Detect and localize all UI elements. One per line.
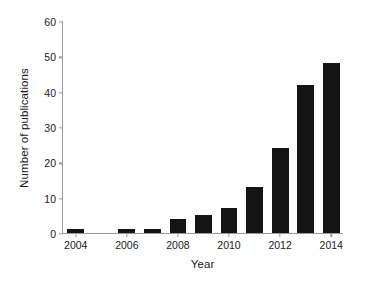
- x-tick-mark: [126, 233, 127, 237]
- x-axis-title: Year: [62, 258, 343, 270]
- bar-chart-figure: Number of publications 0102030405060 200…: [0, 0, 365, 285]
- bars-group: [63, 22, 343, 233]
- x-tick-mark: [228, 233, 229, 237]
- bar: [246, 187, 263, 233]
- bar: [170, 219, 187, 233]
- bar: [144, 229, 161, 233]
- bar: [323, 63, 340, 233]
- x-tick-mark: [279, 233, 280, 237]
- bar: [297, 85, 314, 233]
- x-tick-label: 2012: [268, 240, 291, 251]
- x-tick-mark: [177, 233, 178, 237]
- x-tick-label: 2004: [64, 240, 87, 251]
- y-tick-label: 40: [44, 87, 63, 98]
- y-tick-label: 30: [44, 123, 63, 134]
- y-tick-label: 60: [44, 17, 63, 28]
- x-tick-label: 2006: [115, 240, 138, 251]
- bar: [221, 208, 238, 233]
- y-axis-title: Number of publications: [16, 22, 32, 234]
- y-tick-label: 50: [44, 52, 63, 63]
- x-tick-label: 2008: [166, 240, 189, 251]
- x-tick-label: 2014: [320, 240, 343, 251]
- x-tick-mark: [331, 233, 332, 237]
- bar: [272, 148, 289, 233]
- bar: [195, 215, 212, 233]
- y-tick-label: 10: [44, 193, 63, 204]
- y-tick-label: 0: [50, 229, 63, 240]
- x-tick-label: 2010: [217, 240, 240, 251]
- plot-area: 0102030405060 200420062008201020122014: [62, 22, 343, 234]
- y-tick-label: 20: [44, 158, 63, 169]
- x-tick-mark: [75, 233, 76, 237]
